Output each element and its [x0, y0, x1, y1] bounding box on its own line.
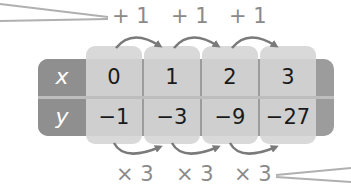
- bottom-step-arrows: [114, 143, 276, 154]
- bottom-step-label: × 3: [176, 164, 214, 185]
- arrow-icon: [172, 143, 218, 154]
- top-step-arrows: [116, 37, 276, 48]
- arrow-icon: [174, 37, 218, 48]
- top-step-label: + 1: [112, 6, 150, 27]
- callout-line-top: [0, 4, 108, 21]
- callout-line-bottom: [276, 168, 351, 182]
- top-step-label: + 1: [171, 6, 209, 27]
- bottom-step-label: × 3: [234, 164, 272, 185]
- arrow-icon: [116, 37, 160, 48]
- top-step-label: + 1: [229, 6, 267, 27]
- bottom-step-label: × 3: [116, 164, 154, 185]
- arrow-icon: [232, 37, 276, 48]
- arrow-icon: [114, 143, 160, 154]
- arrow-icon: [230, 143, 276, 154]
